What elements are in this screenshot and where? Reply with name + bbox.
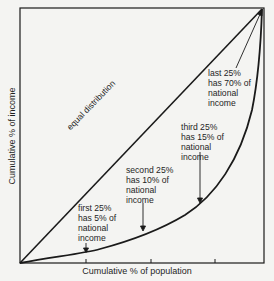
annotation-line: third 25% — [181, 122, 224, 132]
annotation-line: last 25% — [208, 68, 251, 78]
arrow-second — [141, 226, 146, 231]
x-axis-label: Cumulative % of population — [0, 266, 274, 276]
annotation-line: national — [181, 142, 224, 152]
annotation-line: has 5% of — [78, 213, 116, 223]
annotation-line: has 70% of — [208, 78, 251, 88]
annotation-line: income — [181, 152, 224, 162]
annotation-last: last 25% has 70% of national income — [208, 68, 251, 108]
annotation-line: national — [78, 223, 116, 233]
annotation-first: first 25% has 5% of national income — [78, 203, 116, 243]
lorenz-chart — [0, 0, 274, 281]
annotation-line: national — [208, 88, 251, 98]
equal-distribution-line — [20, 9, 262, 263]
annotation-third: third 25% has 15% of national income — [181, 122, 224, 162]
annotation-line: second 25% — [126, 165, 173, 175]
annotation-line: income — [208, 98, 251, 108]
annotation-line: income — [78, 233, 116, 243]
annotation-line: income — [126, 195, 173, 205]
annotation-line: first 25% — [78, 203, 116, 213]
annotation-second: second 25% has 10% of national income — [126, 165, 173, 205]
annotation-line: has 10% of — [126, 175, 173, 185]
annotation-line: national — [126, 185, 173, 195]
y-axis-label: Cumulative % of income — [7, 76, 17, 196]
annotation-line: has 15% of — [181, 132, 224, 142]
